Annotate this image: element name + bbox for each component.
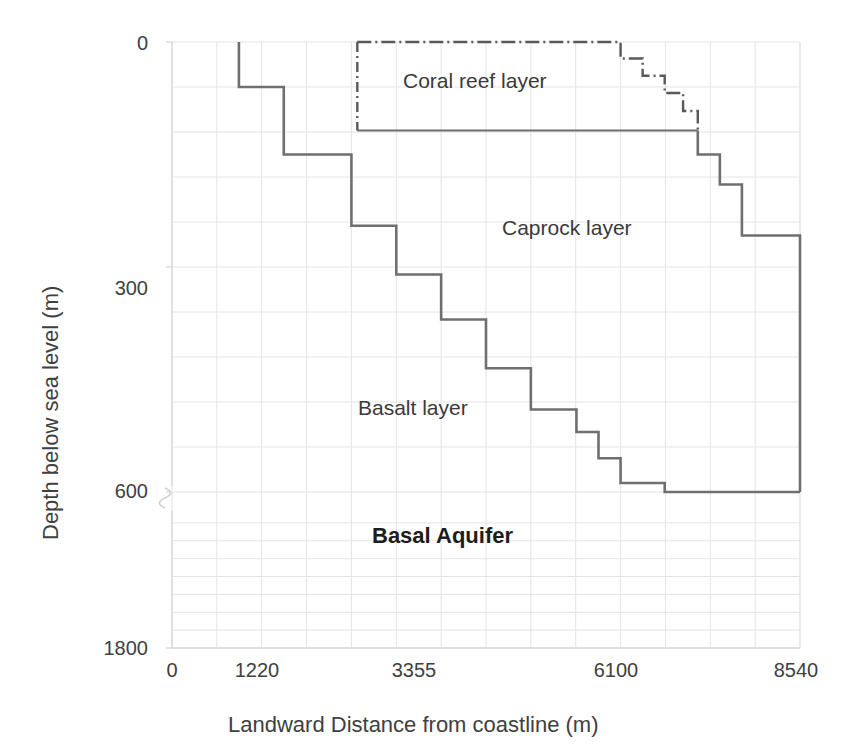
annotation-coral-reef-layer: Coral reef layer <box>403 69 547 93</box>
annotation-caprock-layer: Caprock layer <box>502 216 632 240</box>
geological-cross-section-figure: 0 300 600 1800 0 1220 3355 6100 8540 Dep… <box>0 0 858 755</box>
annotation-basalt-layer: Basalt layer <box>358 396 468 420</box>
x-tick-label-0: 0 <box>157 659 187 682</box>
y-tick-label-600: 600 <box>88 480 148 503</box>
y-axis-title: Depth below sea level (m) <box>38 286 64 540</box>
y-tick-label-0: 0 <box>98 32 148 55</box>
x-tick-label-8540: 8540 <box>766 659 826 682</box>
y-tick-label-1800: 1800 <box>78 637 148 660</box>
x-tick-label-3355: 3355 <box>384 659 444 682</box>
series-caprock-layer-base <box>698 131 800 493</box>
x-tick-label-1220: 1220 <box>227 659 287 682</box>
x-axis-title: Landward Distance from coastline (m) <box>228 712 598 738</box>
x-tick-label-6100: 6100 <box>586 659 646 682</box>
annotation-basal-aquifer: Basal Aquifer <box>372 523 513 549</box>
y-axis-break-icon <box>160 488 171 508</box>
y-tick-label-300: 300 <box>88 277 148 300</box>
